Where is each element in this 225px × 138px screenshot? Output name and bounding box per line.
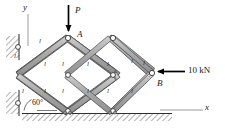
member-label-2: l — [39, 38, 41, 45]
member-label-14: l — [131, 88, 133, 95]
node-mid-1 — [66, 73, 71, 78]
node-B-label: B — [157, 79, 163, 88]
load-P-label: P — [75, 6, 81, 15]
member-label-7: l — [131, 58, 133, 65]
roller-2a — [109, 111, 112, 114]
member-label-13: l — [107, 88, 109, 95]
node-B — [149, 70, 154, 75]
roller-1b — [69, 111, 72, 114]
member-label-5: l — [87, 61, 89, 68]
figure-canvas: y x P A B 10 kN 60° l l l l l l l l l l … — [0, 0, 225, 138]
member-label-9: l — [22, 88, 24, 95]
bar-A1 — [16, 35, 69, 76]
member-label-12: l — [87, 88, 89, 95]
node-wall-lower — [16, 101, 21, 106]
member-label-4: l — [62, 61, 64, 68]
member-label-1: l — [14, 53, 16, 60]
member-label-8: l — [143, 60, 145, 67]
x-axis-label: x — [205, 103, 209, 112]
roller-2b — [114, 111, 117, 114]
bar-D1 — [112, 37, 155, 75]
roller-1a — [64, 111, 67, 114]
node-wall-upper — [16, 45, 21, 50]
member-label-11: l — [62, 88, 64, 95]
y-axis-label: y — [23, 3, 27, 12]
member-label-10: l — [44, 88, 46, 95]
node-A-label: A — [77, 30, 83, 39]
member-label-6: l — [107, 61, 109, 68]
node-mid-2 — [111, 73, 116, 78]
node-top-2 — [110, 35, 115, 40]
member-label-3: l — [44, 61, 46, 68]
load-10kN-label: 10 kN — [188, 66, 210, 75]
node-A — [65, 35, 70, 40]
angle-60-label: 60° — [32, 99, 43, 107]
